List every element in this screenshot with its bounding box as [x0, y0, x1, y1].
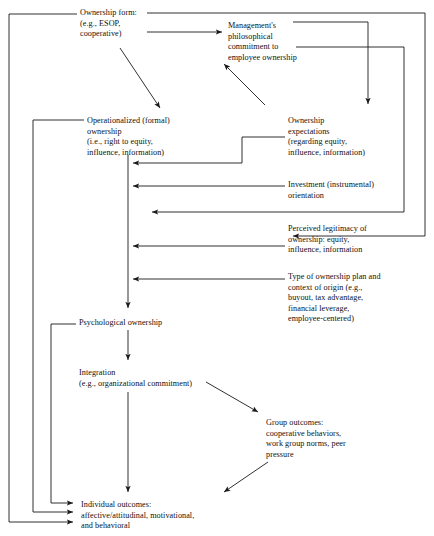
edge-ownership-form-to-operationalized [120, 48, 160, 108]
edge-management-to-operationalized [224, 64, 265, 105]
node-perceived-legitimacy: Perceived legitimacy of ownership: equit… [288, 224, 408, 256]
edge-operationalized-to-individual [33, 120, 84, 512]
edge-psychological-to-individual [51, 324, 76, 503]
diagram-canvas: Ownership form: (e.g., ESOP, cooperative… [0, 0, 434, 536]
node-group-outcomes: Group outcomes: cooperative behaviors, w… [266, 418, 386, 460]
node-management-commitment: Management's philosophical commitment to… [228, 21, 316, 63]
node-integration: Integration (e.g., organizational commit… [79, 368, 219, 389]
edge-group-to-individual [224, 462, 268, 492]
node-individual-outcomes: Individual outcomes: affective/attitudin… [81, 500, 261, 532]
edge-ownership-form-to-individual [9, 14, 77, 522]
node-investment-orientation: Investment (instrumental) orientation [288, 180, 408, 201]
node-type-of-ownership-plan: Type of ownership plan and context of or… [288, 272, 416, 325]
node-ownership-expectations: Ownership expectations (regarding equity… [288, 116, 398, 158]
node-ownership-form: Ownership form: (e.g., ESOP, cooperative… [80, 8, 150, 40]
node-operationalized-ownership: Operationalized (formal) ownership (i.e.… [87, 116, 197, 158]
node-psychological-ownership: Psychological ownership [79, 318, 209, 329]
